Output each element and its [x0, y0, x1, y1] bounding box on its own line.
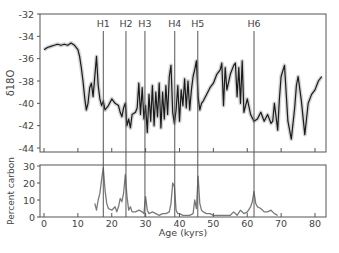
- x-tick-label: 10: [72, 218, 84, 229]
- bottom-panel-carbon: 0102030 01020304050607080 Percent carbon…: [6, 157, 326, 238]
- bottom-y-tick-label: 30: [23, 161, 35, 172]
- heinrich-label: H4: [168, 18, 181, 29]
- bottom-y-tick-label: 20: [23, 178, 35, 189]
- bottom-panel-frame: [40, 165, 326, 217]
- x-tick-label: 30: [140, 218, 152, 229]
- x-tick-label: 80: [309, 218, 321, 229]
- bottom-y-tick-label: 0: [29, 212, 35, 223]
- x-tick-label: 20: [106, 218, 118, 229]
- top-y-tick-label: -36: [18, 53, 34, 64]
- bottom-y-axis-label: Percent carbon: [6, 157, 16, 225]
- top-panel-d18o: -32-34-36-38-40-42-44 δ18O: [5, 9, 326, 154]
- top-y-axis-label: δ18O: [5, 70, 16, 97]
- bottom-y-axis: 0102030: [23, 161, 40, 223]
- top-y-tick-label: -34: [18, 31, 34, 42]
- chart-figure: -32-34-36-38-40-42-44 δ18O 0102030 01020…: [0, 0, 339, 253]
- top-y-tick-label: -38: [18, 76, 34, 87]
- heinrich-label: H1: [97, 18, 110, 29]
- heinrich-label: H3: [138, 18, 151, 29]
- carbon-line: [95, 168, 278, 216]
- top-x-ticks: [44, 148, 315, 152]
- heinrich-label: H6: [247, 18, 260, 29]
- x-tick-label: 50: [207, 218, 219, 229]
- top-y-tick-label: -42: [18, 120, 34, 131]
- x-axis-label: Age (kyrs): [159, 227, 207, 238]
- heinrich-label: H5: [191, 18, 204, 29]
- top-y-tick-label: -32: [18, 9, 34, 20]
- bottom-y-tick-label: 10: [23, 195, 35, 206]
- top-y-axis: -32-34-36-38-40-42-44: [18, 9, 40, 154]
- x-tick-label: 60: [241, 218, 253, 229]
- top-y-tick-label: -44: [18, 143, 34, 154]
- x-tick-label: 70: [275, 218, 287, 229]
- top-y-tick-label: -40: [18, 98, 34, 109]
- x-tick-label: 0: [41, 218, 47, 229]
- heinrich-label: H2: [119, 18, 132, 29]
